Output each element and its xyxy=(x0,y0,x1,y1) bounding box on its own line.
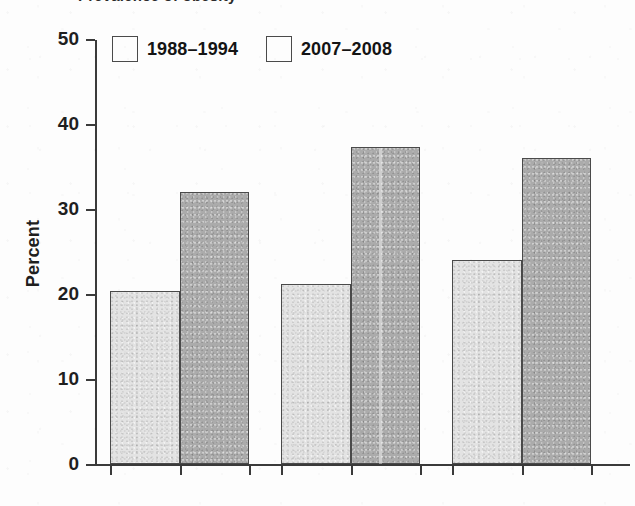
cropped-title-text: Prevalence of obesity xyxy=(78,0,236,4)
x-axis-tick-3 xyxy=(281,466,283,475)
legend-swatch-2007-2008 xyxy=(266,36,292,62)
x-axis-tick-0 xyxy=(110,466,112,475)
x-axis-tick-1 xyxy=(180,466,182,475)
x-axis-tick-7 xyxy=(522,466,524,475)
bar-group1-2007-2008 xyxy=(180,192,249,464)
x-axis-tick-5 xyxy=(420,466,422,475)
x-axis-tick-4 xyxy=(351,466,353,475)
x-axis-tick-2 xyxy=(249,466,251,475)
y-axis-tick-label-30: 30 xyxy=(58,198,79,220)
x-axis-line xyxy=(95,464,630,466)
bar-group2-2007-2008 xyxy=(351,147,420,464)
bar-group3-1988-1994 xyxy=(452,260,522,464)
y-axis-tick-50: 50 xyxy=(86,39,95,41)
y-axis-tick-label-40: 40 xyxy=(58,113,79,135)
y-axis-tick-label-50: 50 xyxy=(58,28,79,50)
bar-group3-2007-2008 xyxy=(522,158,591,464)
cropped-title-remnant: Prevalence of obesity xyxy=(0,0,635,7)
y-axis-tick-10: 10 xyxy=(86,379,95,381)
y-axis-tick-30: 30 xyxy=(86,209,95,211)
legend-swatch-1988-1994 xyxy=(112,36,138,62)
x-axis-tick-8 xyxy=(591,466,593,475)
y-axis-line xyxy=(95,40,97,466)
y-axis-tick-label-20: 20 xyxy=(58,283,79,305)
legend-label-1: 2007–2008 xyxy=(301,39,392,60)
legend-label-0: 1988–1994 xyxy=(147,39,238,60)
plot-area: 01020304050 Percent 1988–19942007–2008 xyxy=(0,0,635,506)
y-axis-tick-20: 20 xyxy=(86,294,95,296)
legend-entry-0: 1988–1994 xyxy=(112,36,238,62)
bar-group1-1988-1994 xyxy=(110,291,180,464)
chart-legend: 1988–19942007–2008 xyxy=(112,36,392,62)
chart-figure: Prevalence of obesity 01020304050 Percen… xyxy=(0,0,635,506)
y-axis-tick-0: 0 xyxy=(86,464,95,466)
bar-group2-1988-1994 xyxy=(281,284,351,464)
legend-entry-1: 2007–2008 xyxy=(266,36,392,62)
y-axis-tick-label-10: 10 xyxy=(58,368,79,390)
x-axis-tick-6 xyxy=(452,466,454,475)
y-axis-tick-label-0: 0 xyxy=(68,453,79,475)
y-axis-title: Percent xyxy=(23,199,44,309)
y-axis-tick-40: 40 xyxy=(86,124,95,126)
